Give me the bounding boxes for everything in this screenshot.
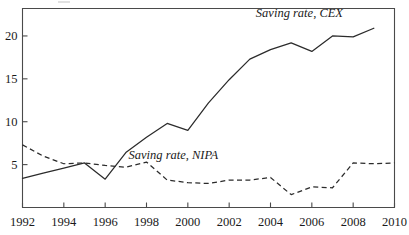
x-tick-label: 2008 (341, 215, 366, 229)
series-label-saving-rate-nipa: Saving rate, NIPA (129, 148, 219, 162)
y-tick-label: 20 (5, 29, 18, 43)
x-tick-label: 1998 (134, 215, 159, 229)
line-chart: 5101520 19921994199619982000200220042006… (0, 0, 409, 235)
chart-frame (23, 9, 395, 208)
y-tick-label: 10 (5, 115, 18, 129)
scan-artifact (58, 1, 70, 3)
x-tick-label: 2006 (299, 215, 324, 229)
x-axis-ticks (23, 203, 395, 208)
figure-container: 5101520 19921994199619982000200220042006… (0, 0, 409, 235)
y-axis-tick-labels: 5101520 (5, 29, 18, 172)
x-tick-label: 2002 (217, 215, 242, 229)
x-tick-label: 2004 (258, 215, 284, 229)
y-tick-label: 5 (11, 158, 17, 172)
y-tick-label: 15 (5, 72, 18, 86)
x-tick-label: 2010 (382, 215, 407, 229)
x-tick-label: 1996 (93, 215, 118, 229)
x-tick-label: 2000 (175, 215, 200, 229)
x-tick-label: 1994 (51, 215, 77, 229)
x-tick-label: 1992 (10, 215, 35, 229)
x-axis-tick-labels: 1992199419961998200020022004200620082010 (10, 215, 407, 229)
series-label-saving-rate-cex: Saving rate, CEX (256, 6, 345, 20)
